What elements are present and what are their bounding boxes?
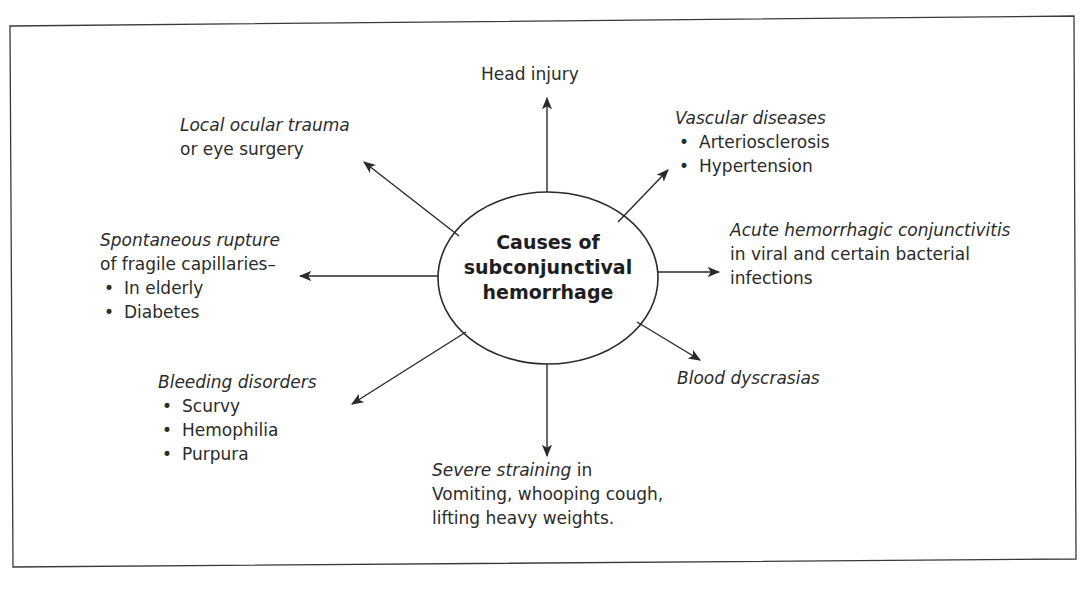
list-item: Hypertension [675, 154, 830, 178]
list-item: Scurvy [158, 394, 317, 418]
node-title: Blood dyscrasias [677, 366, 820, 390]
node-list: Arteriosclerosis Hypertension [675, 130, 830, 178]
node-subtitle: of fragile capillaries– [100, 252, 280, 276]
node-line: infections [730, 266, 1010, 290]
node-head-injury: Head injury [481, 62, 579, 86]
center-line: Causes of [438, 230, 658, 255]
arrow-vascular [618, 170, 668, 222]
list-item: Purpura [158, 442, 317, 466]
center-line: hemorrhage [438, 280, 658, 305]
node-acute-conjunctivitis: Acute hemorrhagic conjunctivitis in vira… [730, 218, 1010, 290]
node-bleeding-disorders: Bleeding disorders Scurvy Hemophilia Pur… [158, 370, 317, 466]
node-title: Acute hemorrhagic conjunctivitis [730, 218, 1010, 242]
node-subtitle: or eye surgery [180, 137, 350, 161]
node-title: Vascular diseases [675, 106, 830, 130]
arrow-bleeding [352, 332, 466, 404]
list-item: Diabetes [100, 300, 280, 324]
node-title: Severe straining [432, 460, 571, 480]
node-list: Scurvy Hemophilia Purpura [158, 394, 317, 466]
node-title-suffix: in [571, 460, 592, 480]
node-line: Vomiting, whooping cough, [432, 482, 663, 506]
node-line: in viral and certain bacterial [730, 242, 1010, 266]
node-title: Head injury [481, 62, 579, 86]
node-title: Bleeding disorders [158, 370, 317, 394]
node-line: lifting heavy weights. [432, 506, 663, 530]
node-title: Spontaneous rupture [100, 228, 280, 252]
center-title: Causes of subconjunctival hemorrhage [438, 230, 658, 305]
list-item: In elderly [100, 276, 280, 300]
node-list: In elderly Diabetes [100, 276, 280, 324]
center-line: subconjunctival [438, 255, 658, 280]
arrow-blood-dys [637, 322, 700, 360]
node-spontaneous: Spontaneous rupture of fragile capillari… [100, 228, 280, 324]
node-blood-dyscrasias: Blood dyscrasias [677, 366, 820, 390]
node-title: Local ocular trauma [180, 113, 350, 137]
node-vascular: Vascular diseases Arteriosclerosis Hyper… [675, 106, 830, 178]
arrow-local-trauma [364, 162, 459, 236]
list-item: Hemophilia [158, 418, 317, 442]
list-item: Arteriosclerosis [675, 130, 830, 154]
node-local-trauma: Local ocular trauma or eye surgery [180, 113, 350, 161]
node-severe-straining: Severe straining in Vomiting, whooping c… [432, 458, 663, 530]
